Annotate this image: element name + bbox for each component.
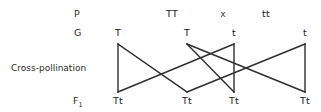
genetics-cross-diagram: P G Cross-pollination F1 TT x tt T T t t… [0,0,321,112]
gamete-offspring-connector-lines [0,0,321,112]
connector-line [187,44,234,92]
connector-group [118,44,305,92]
